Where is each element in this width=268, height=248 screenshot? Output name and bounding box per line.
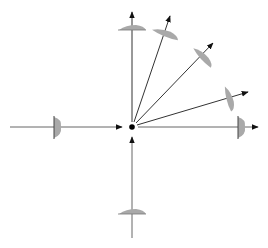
lens-up-right-diagonal xyxy=(192,45,214,69)
focus-point xyxy=(129,124,135,130)
lens-up xyxy=(118,25,146,30)
rays xyxy=(10,12,258,238)
lenses xyxy=(54,25,245,214)
lens-right xyxy=(238,116,245,139)
optics-diagram xyxy=(0,0,268,248)
lens-bottom xyxy=(118,209,146,214)
lens-left xyxy=(54,116,61,139)
